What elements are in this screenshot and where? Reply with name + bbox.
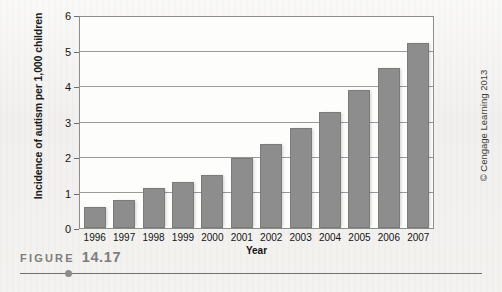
y-tick-label: 3 [49,117,71,129]
bar-slot [80,17,109,228]
bar-slot [168,17,197,228]
y-tick-label: 2 [49,152,71,164]
copyright-credit: © Cengage Learning 2013 [478,41,489,211]
x-axis-title: Year [79,245,434,256]
bar-slot [227,17,256,228]
figure-14-17: Incidence of autism per 1,000 children 0… [0,0,502,292]
y-tick-mark [74,229,79,230]
bar-slot [345,17,374,228]
y-tick-mark [74,194,79,195]
bar [143,188,165,228]
bar [231,158,253,228]
y-tick-label: 5 [49,46,71,58]
caption-rule-dot [65,270,72,277]
figure-caption-number: 14.17 [82,249,121,265]
bar [348,90,370,228]
y-tick-label: 4 [49,81,71,93]
bar [260,144,282,228]
bar-slot [315,17,344,228]
bar [290,128,312,228]
bar [172,182,194,228]
y-tick-mark [74,52,79,53]
y-tick-label: 0 [49,223,71,235]
caption-rule [20,270,482,278]
y-tick-mark [74,87,79,88]
bar-slot [374,17,403,228]
bar [378,68,400,228]
y-tick-label: 1 [49,188,71,200]
y-tick-mark [74,158,79,159]
figure-caption: FIGURE 14.17 [20,249,121,265]
figure-caption-word: FIGURE [20,252,75,264]
bar-slot [404,17,433,228]
caption-rule-line [20,273,482,274]
y-axis-title: Incidence of autism per 1,000 children [32,6,44,206]
y-tick-label: 6 [49,10,71,22]
bar [113,200,135,228]
bar-slot [198,17,227,228]
bar [319,112,341,228]
bar-slot [257,17,286,228]
bar [407,43,429,228]
bar-series [80,17,433,228]
x-tick-label: 2007 [398,232,438,243]
bar [201,175,223,228]
y-tick-mark [74,16,79,17]
y-tick-mark [74,123,79,124]
bar-chart: Incidence of autism per 1,000 children 0… [0,0,460,246]
bar [84,207,106,228]
bar-slot [109,17,138,228]
bar-slot [139,17,168,228]
bar-slot [286,17,315,228]
